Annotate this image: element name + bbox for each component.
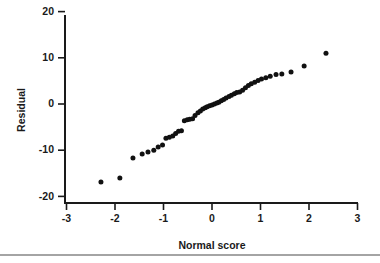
data-point: [279, 71, 284, 76]
data-point: [117, 175, 122, 180]
data-point: [259, 77, 264, 82]
x-tick-label: 0: [209, 212, 215, 224]
y-tick-label: 10: [42, 51, 54, 63]
y-tick-label: 20: [42, 5, 54, 17]
data-point: [289, 70, 294, 75]
x-tick-label: 1: [258, 212, 264, 224]
x-axis-title: Normal score: [178, 239, 245, 251]
data-point: [268, 74, 273, 79]
y-tick-label: -10: [39, 143, 54, 155]
data-point: [179, 128, 184, 133]
x-tick-label: 3: [355, 212, 361, 224]
x-tick-label: -1: [159, 212, 168, 224]
normal-probability-plot: -20-1001020 -3-2-10123 Normal score Resi…: [0, 0, 380, 263]
data-point: [140, 151, 145, 156]
data-point: [263, 75, 268, 80]
chart-svg: -20-1001020 -3-2-10123 Normal score Resi…: [0, 0, 380, 263]
y-tick-label: 0: [48, 97, 54, 109]
data-point: [274, 72, 279, 77]
data-point: [160, 143, 165, 148]
x-tick-label: -3: [62, 212, 71, 224]
data-point: [323, 51, 328, 56]
y-axis-title: Residual: [15, 88, 27, 132]
x-tick-label: -2: [110, 212, 119, 224]
data-point: [151, 148, 156, 153]
data-point: [302, 64, 307, 69]
figure-background: [0, 0, 380, 263]
data-point: [156, 144, 161, 149]
data-point: [130, 156, 135, 161]
data-point: [98, 180, 103, 185]
x-tick-label: 2: [306, 212, 312, 224]
y-tick-label: -20: [39, 190, 54, 202]
data-point: [145, 150, 150, 155]
